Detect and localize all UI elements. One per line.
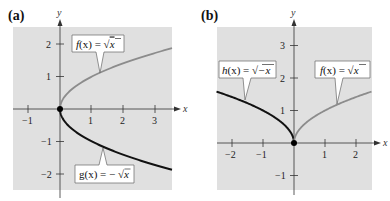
panel-b-x-tick-label: 2 — [353, 149, 358, 160]
panel-b-origin-point — [291, 140, 297, 146]
panel-b-x-tick-label: 1 — [322, 149, 327, 160]
panel-b-y-axis-name: y — [290, 7, 296, 18]
panel-b-y-tick-label: 2 — [280, 73, 285, 84]
panel-b: (b) x y −2 −1 1 2 3 2 1 −1 — [201, 7, 388, 195]
panel-b-label: (b) — [201, 8, 218, 24]
svg-text:g(x) = − √x: g(x) = − √x — [79, 168, 129, 181]
panel-a: (a) x y −1 1 2 3 2 1 −1 −2 — [8, 7, 188, 198]
panel-b-x-axis-name: x — [382, 137, 388, 148]
figure: (a) x y −1 1 2 3 2 1 −1 −2 — [0, 0, 390, 201]
panel-b-x-tick-label: −1 — [256, 149, 267, 160]
panel-a-y-axis-name: y — [56, 7, 62, 18]
panel-a-x-tick-label: 1 — [88, 115, 93, 126]
panel-b-y-tick-label: 1 — [280, 105, 285, 116]
panel-a-y-tick-label: −1 — [41, 136, 52, 147]
panel-b-y-tick-label: 3 — [280, 40, 285, 51]
panel-a-y-tick-label: 1 — [46, 71, 51, 82]
panel-a-x-axis-name: x — [182, 103, 188, 114]
svg-text:f(x) = √x: f(x) = √x — [320, 64, 359, 77]
panel-b-plot-area — [217, 27, 372, 190]
panel-a-x-axis-arrow-icon — [174, 107, 181, 112]
panel-a-x-tick-label: −1 — [22, 115, 33, 126]
panel-a-y-tick-label: 2 — [46, 39, 51, 50]
panel-b-x-axis-arrow-icon — [374, 141, 381, 146]
panel-a-origin-point — [57, 106, 63, 112]
panel-b-x-tick-label: −2 — [225, 149, 236, 160]
panel-b-y-axis-arrow-icon — [292, 19, 297, 26]
panel-b-y-tick-label: −1 — [275, 170, 286, 181]
panel-a-x-tick-label: 3 — [152, 115, 157, 126]
svg-text:h(x) = √−x: h(x) = √−x — [222, 64, 271, 77]
panel-a-y-axis-arrow-icon — [58, 19, 63, 26]
panel-a-y-tick-label: −2 — [41, 169, 52, 180]
panel-a-label: (a) — [8, 8, 25, 24]
panel-a-x-tick-label: 2 — [120, 115, 125, 126]
svg-text:f(x) = √x: f(x) = √x — [76, 38, 115, 51]
